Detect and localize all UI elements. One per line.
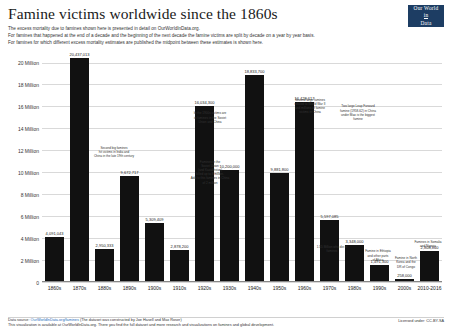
bar-column[interactable]: 4,091,0431860s <box>42 52 67 282</box>
y-axis-tick-label: 2 Million <box>21 258 39 264</box>
bar-column[interactable]: 1,491,3001990s <box>367 52 392 282</box>
bar-column[interactable]: 5,309,4091900s <box>142 52 167 282</box>
bar[interactable]: 2,950,333 <box>95 249 114 281</box>
x-axis-tick-label: 1970s <box>323 285 337 291</box>
y-axis-tick-label: 16 Million <box>18 104 39 110</box>
x-axis-tick-label: 1900s <box>148 285 162 291</box>
chart-annotation: 1.55 Million who die in famines <box>312 245 352 253</box>
x-axis-tick-label: 2000s <box>398 285 412 291</box>
bar-value-label: 9,881,800 <box>271 167 289 172</box>
bar-value-label: 5,309,409 <box>146 217 164 222</box>
bar[interactable]: 5,309,409 <box>145 223 164 281</box>
chart-annotation: Second big famines hit victims in India … <box>92 146 136 159</box>
x-axis-tick-label: 1870s <box>73 285 87 291</box>
bar-value-label: 3,348,000 <box>346 239 364 244</box>
y-axis-tick-label: 8 Million <box>21 192 39 198</box>
bar[interactable]: 4,091,043 <box>45 237 64 282</box>
bar[interactable]: 16,428,617 <box>295 102 314 282</box>
chart-subtitle: The excess mortality due to famines show… <box>8 25 338 46</box>
source-label: Data source: <box>8 318 30 322</box>
chart-annotation: Famine in North Korea and the DR of Cong… <box>388 256 424 269</box>
bar[interactable]: 16,034,300 <box>195 106 214 282</box>
bar-column[interactable]: 9,881,8001950s <box>267 52 292 282</box>
bar[interactable]: 1,491,300 <box>370 265 389 281</box>
x-axis-tick-label: 1980s <box>348 285 362 291</box>
y-axis-tick-label: 6 Million <box>21 214 39 220</box>
bar-column[interactable]: 2,950,3331880s <box>92 52 117 282</box>
logo-line-3: Data <box>421 20 432 27</box>
bar-value-label: 9,672,717 <box>121 170 139 175</box>
chart-annotation: Two large Leap Forward famine (1958-62) … <box>334 104 382 121</box>
chart-annotation: Famines in Somalia and Nigeria <box>410 240 446 248</box>
footer-availability-row: This visualization is available at OurWo… <box>8 323 444 329</box>
bar[interactable]: 2,878,200 <box>170 250 189 282</box>
footer: Data source: OurWorldInData.org/famines … <box>8 318 444 329</box>
x-axis-tick-label: 1910s <box>173 285 187 291</box>
plot-region: 02 Million4 Million6 Million8 Million10 … <box>42 52 442 282</box>
chart-annotation: Second large famines related to World Wa… <box>286 98 334 115</box>
owid-logo: Our World in Data <box>408 5 444 27</box>
x-axis-tick-label: 1960s <box>298 285 312 291</box>
x-axis-tick-label: 1950s <box>273 285 287 291</box>
bar-column[interactable]: 20,437,0131870s <box>67 52 92 282</box>
y-axis-tick-label: 12 Million <box>18 148 39 154</box>
x-axis-tick-label: 1930s <box>223 285 237 291</box>
chart-page: Our World in Data Famine victims worldwi… <box>0 0 452 332</box>
bar[interactable]: 9,881,800 <box>270 173 289 281</box>
bar-column[interactable]: 9,672,7171890s <box>117 52 142 282</box>
bar-value-label: 5,597,085 <box>321 214 339 219</box>
bar[interactable]: 9,672,717 <box>120 176 139 282</box>
x-axis-tick-label: 1860s <box>48 285 62 291</box>
bar-value-label: 258,000 <box>397 273 411 278</box>
x-axis-tick-label: 1940s <box>248 285 262 291</box>
y-axis-tick-label: 14 Million <box>18 126 39 132</box>
bar-value-label: 4,091,043 <box>46 231 64 236</box>
x-axis-tick-label: 1990s <box>373 285 387 291</box>
bar-value-label: 16,034,300 <box>194 100 214 105</box>
bar-value-label: 2,878,200 <box>171 244 189 249</box>
y-axis-tick-label: 18 Million <box>18 82 39 88</box>
page-title: Famine victims worldwide since the 1860s <box>8 6 444 22</box>
y-axis-tick-label: 4 Million <box>21 236 39 242</box>
chart-area: 02 Million4 Million6 Million8 Million10 … <box>8 50 444 302</box>
source-link[interactable]: OurWorldInData.org/famines <box>31 318 79 322</box>
y-axis-tick-label: 0 <box>36 280 39 286</box>
bar-value-label: 20,437,013 <box>69 52 89 57</box>
bar[interactable]: 20,437,013 <box>70 58 89 282</box>
bar[interactable]: 18,833,700 <box>245 75 264 281</box>
x-axis-tick-label: 1920s <box>198 285 212 291</box>
chart-annotation: Famines in the Soviet Union (and Kazakhs… <box>186 160 234 185</box>
x-axis-tick-label: 1890s <box>123 285 137 291</box>
source-note: (The dataset was constructed by Joe Hase… <box>80 318 182 322</box>
bar-series: 4,091,0431860s20,437,0131870s2,950,33318… <box>42 52 442 282</box>
y-axis-tick-label: 20 Million <box>18 60 39 66</box>
bar-column[interactable]: 18,833,7001940s <box>242 52 267 282</box>
bar[interactable]: 10,200,000 <box>220 170 239 282</box>
x-axis-tick-label: 2010-2016 <box>418 285 442 291</box>
subtitle-line-3: For famines for which different excess m… <box>8 39 338 46</box>
bar-value-label: 18,833,700 <box>244 69 264 74</box>
logo-line-1: Our World <box>414 5 439 12</box>
x-axis-line <box>42 281 442 282</box>
y-axis-tick-label: 10 Million <box>18 170 39 176</box>
subtitle-line-2: For famines that happened at the end of … <box>8 32 338 39</box>
chart-annotation: In the 1900s victims are in famines in t… <box>188 111 232 124</box>
bar-value-label: 2,950,333 <box>96 243 114 248</box>
subtitle-line-1: The excess mortality due to famines show… <box>8 25 338 32</box>
x-axis-tick-label: 1880s <box>98 285 112 291</box>
logo-line-2: in <box>424 12 429 20</box>
gridline: 0 <box>42 282 442 283</box>
